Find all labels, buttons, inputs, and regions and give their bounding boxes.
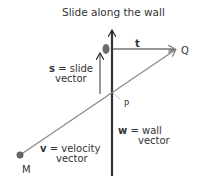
velocity-vector-label-line2: vector [56,153,88,164]
label-t: t [135,38,140,49]
slide-point [103,44,110,54]
diagram-canvas [0,0,201,185]
slide-vector-label-line2: vector [55,73,87,84]
wall-vector-label-line2: vector [138,135,170,146]
label-m: M [22,164,31,175]
label-q: Q [181,45,189,56]
wall-symbol: w [118,125,127,136]
diagram-title: Slide along the wall [62,7,165,18]
p-leader-line [113,93,120,99]
label-p: P [124,99,129,110]
m-point [17,152,24,159]
